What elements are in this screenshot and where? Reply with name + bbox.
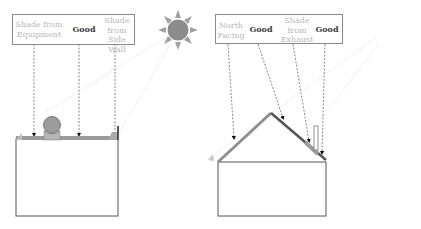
left-label-box: Shade from Equipment Good Shade from Sid… (12, 14, 135, 45)
sun-icon (158, 10, 198, 50)
side-wall (117, 126, 119, 140)
label-good: Good (69, 25, 99, 35)
label-shade-side-wall: Shade from Side Wall (101, 16, 133, 54)
left-roof-panel (16, 136, 118, 140)
solar-shading-diagram: Shade from Equipment Good Shade from Sid… (0, 0, 421, 229)
rooftop-equipment (44, 117, 61, 134)
label-north-facing: North Facing (216, 21, 246, 40)
right-light-arrows (228, 44, 325, 153)
left-building (16, 139, 118, 216)
right-label-box: North Facing Good Shade from Exhaust Goo… (215, 14, 343, 44)
label-shade-equipment: Shade from Equipment (15, 20, 63, 39)
exhaust-pipe (314, 126, 318, 150)
right-building (218, 162, 326, 216)
right-sun-rays (210, 38, 378, 158)
label-shade-exhaust: Shade from Exhaust (280, 16, 314, 45)
label-good: Good (312, 25, 342, 35)
label-good: Good (246, 25, 276, 35)
